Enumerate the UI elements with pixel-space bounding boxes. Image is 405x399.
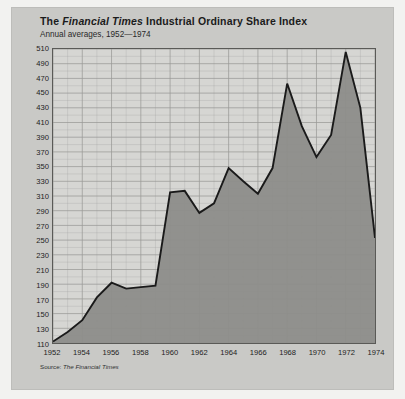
source-publication: The Financial Times [63,363,119,370]
y-axis-tick-label: 490 [15,58,49,67]
y-axis-tick-label: 210 [15,266,49,275]
y-axis-tick-label: 410 [15,118,49,127]
y-axis-tick-label: 310 [15,192,49,201]
y-axis-tick-label: 190 [15,280,49,289]
chart-title: The Financial Times Industrial Ordinary … [40,15,307,27]
y-axis-tick-label: 330 [15,177,49,186]
y-axis-tick-label: 130 [15,325,49,334]
x-axis: 1952195419561958196019621964196619681970… [52,348,376,362]
source-prefix: Source: [40,363,63,370]
y-axis-tick-label: 350 [15,162,49,171]
y-axis-tick-label: 510 [15,44,49,53]
area-chart-svg [53,49,375,343]
y-axis-tick-label: 370 [15,147,49,156]
y-axis-tick-label: 150 [15,310,49,319]
y-axis-tick-label: 430 [15,103,49,112]
chart-figure: The Financial Times Industrial Ordinary … [12,8,393,389]
chart-subtitle: Annual averages, 1952—1974 [40,30,151,39]
y-axis-tick-label: 290 [15,206,49,215]
plot-area [52,48,376,344]
y-axis-tick-label: 270 [15,221,49,230]
y-axis-tick-label: 470 [15,73,49,82]
title-suffix: Industrial Ordinary Share Index [143,15,307,27]
y-axis-tick-label: 250 [15,236,49,245]
title-prefix: The [40,15,62,27]
y-axis-tick-label: 450 [15,88,49,97]
source-note: Source: The Financial Times [40,363,119,370]
y-axis-tick-label: 390 [15,132,49,141]
y-axis: 1101301501701902102302502702903103303503… [12,48,49,344]
y-axis-tick-label: 230 [15,251,49,260]
title-italic-part: Financial Times [62,15,143,27]
x-axis-tick-label: 1974 [356,348,396,357]
y-axis-tick-label: 170 [15,295,49,304]
